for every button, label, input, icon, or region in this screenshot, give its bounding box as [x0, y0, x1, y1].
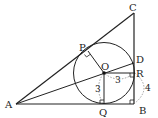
label-d: D: [136, 54, 144, 65]
label-a: A: [4, 99, 13, 110]
measure-oq: 3: [95, 84, 101, 94]
geometry-diagram: A B C D O P Q R 3 3 4: [0, 0, 158, 118]
label-r: R: [136, 68, 144, 79]
measure-or: 3: [115, 75, 121, 85]
label-o: O: [101, 61, 109, 72]
label-q: Q: [99, 107, 107, 118]
label-p: P: [79, 42, 86, 53]
segment-ac: [16, 13, 134, 104]
label-c: C: [129, 2, 137, 13]
measure-rb: 4: [145, 83, 151, 93]
label-b: B: [139, 105, 146, 116]
right-angle-p: [85, 55, 91, 58]
